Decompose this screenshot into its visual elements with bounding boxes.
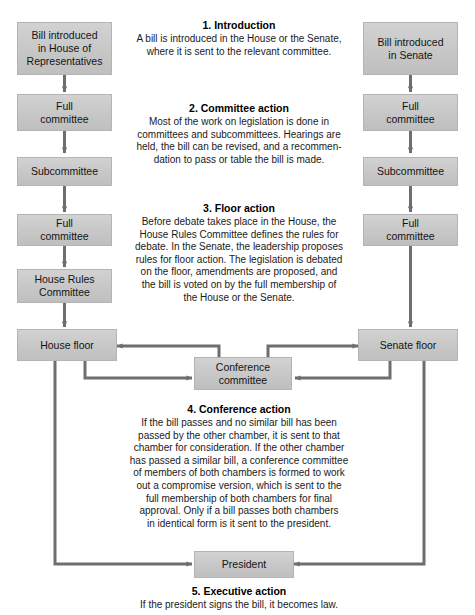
step-4-conference-action: 4. Conference action If the bill passes … (112, 402, 366, 530)
node-label: Senate floor (380, 339, 437, 352)
node-label: President (222, 558, 266, 571)
node-house-subcommittee[interactable]: Subcommittee (17, 157, 112, 186)
node-house-full-committee-2[interactable]: Full committee (17, 214, 112, 246)
node-president[interactable]: President (194, 551, 294, 578)
node-label: House floor (40, 339, 94, 352)
step-body: A bill is introduced in the House or the… (123, 33, 355, 58)
node-house-rules-committee[interactable]: House Rules Committee (17, 269, 112, 303)
arrow-conference-to-senate-floor (268, 346, 358, 357)
node-label: Full committee (40, 217, 88, 243)
node-label: Full committee (386, 217, 434, 243)
step-title: 3. Floor action (118, 201, 360, 215)
node-senate-floor[interactable]: Senate floor (358, 329, 458, 361)
node-label: Full committee (40, 100, 88, 126)
step-body: Most of the work on legislation is done … (118, 116, 360, 166)
node-house-floor[interactable]: House floor (17, 329, 117, 361)
node-label: House Rules Committee (34, 273, 94, 299)
node-house-full-committee-1[interactable]: Full committee (17, 94, 112, 131)
step-body: Before debate takes place in the House, … (118, 216, 360, 304)
node-label: Subcommittee (31, 165, 98, 178)
node-label: Bill introduced in House of Representati… (27, 29, 103, 68)
arrow-senate-floor-to-conference (295, 361, 390, 378)
step-2-committee-action: 2. Committee action Most of the work on … (118, 101, 360, 166)
arrow-conference-to-house-floor (117, 346, 219, 357)
step-title: 4. Conference action (112, 402, 366, 416)
step-title: 5. Executive action (112, 584, 366, 598)
step-body: If the president signs the bill, it beco… (112, 599, 366, 612)
step-3-floor-action: 3. Floor action Before debate takes plac… (118, 201, 360, 304)
step-5-executive-action: 5. Executive action If the president sig… (112, 584, 366, 612)
node-senate-full-committee-1[interactable]: Full committee (363, 94, 458, 131)
step-body: If the bill passes and no similar bill h… (112, 417, 366, 530)
node-label: Subcommittee (377, 165, 444, 178)
flowchart-diagram: Bill introduced in House of Representati… (0, 0, 475, 615)
step-1-introduction: 1. Introduction A bill is introduced in … (123, 18, 355, 58)
arrow-house-floor-to-conference (85, 361, 192, 378)
step-title: 1. Introduction (123, 18, 355, 32)
node-conference-committee[interactable]: Conference committee (194, 357, 292, 390)
node-label: Full committee (386, 100, 434, 126)
node-senate-subcommittee[interactable]: Subcommittee (363, 157, 458, 186)
node-label: Conference committee (216, 361, 270, 387)
step-title: 2. Committee action (118, 101, 360, 115)
node-senate-bill-introduced[interactable]: Bill introduced in Senate (363, 22, 458, 75)
node-house-bill-introduced[interactable]: Bill introduced in House of Representati… (17, 22, 112, 75)
node-label: Bill introduced in Senate (378, 36, 444, 62)
node-senate-full-committee-2[interactable]: Full committee (363, 214, 458, 246)
